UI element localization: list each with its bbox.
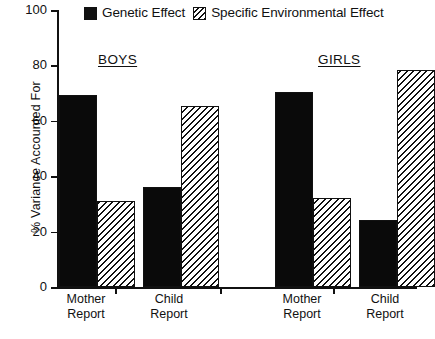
plot-area: 100 80 60 40 20 0 <box>57 10 417 287</box>
y-tick-0: 0 <box>51 287 57 289</box>
y-axis-title: % Variance Accounted For <box>29 37 43 277</box>
y-tick-label-80: 80 <box>33 57 47 72</box>
bar-girls-mother-environmental <box>313 198 351 287</box>
x-label-line1: Child <box>131 292 207 307</box>
y-tick-100: 100 <box>51 10 57 12</box>
x-label-line1: Child <box>347 292 423 307</box>
x-label-line2: Report <box>264 307 340 322</box>
bar-boys-child-genetic <box>143 187 181 287</box>
x-label-line2: Report <box>131 307 207 322</box>
x-label-line2: Report <box>347 307 423 322</box>
y-tick-60: 60 <box>51 121 57 123</box>
x-label-boys-mother-report: Mother Report <box>48 292 124 322</box>
y-tick-label-40: 40 <box>33 168 47 183</box>
bar-boys-mother-environmental <box>97 201 135 287</box>
x-label-girls-child-report: Child Report <box>347 292 423 322</box>
y-tick-label-60: 60 <box>33 113 47 128</box>
y-tick-label-0: 0 <box>40 279 47 294</box>
bar-boys-child-environmental <box>181 106 219 287</box>
bar-girls-child-genetic <box>359 220 397 287</box>
x-axis-line <box>57 287 417 289</box>
x-label-boys-child-report: Child Report <box>131 292 207 322</box>
x-label-line2: Report <box>48 307 124 322</box>
x-label-line1: Mother <box>264 292 340 307</box>
x-label-girls-mother-report: Mother Report <box>264 292 340 322</box>
y-tick-80: 80 <box>51 65 57 67</box>
x-tick-group-separator <box>220 287 222 294</box>
y-tick-40: 40 <box>51 176 57 178</box>
bar-girls-child-environmental <box>397 70 435 287</box>
y-tick-label-100: 100 <box>25 2 47 17</box>
x-label-line1: Mother <box>48 292 124 307</box>
bar-boys-mother-genetic <box>59 95 97 287</box>
y-tick-label-20: 20 <box>33 224 47 239</box>
bar-girls-mother-genetic <box>275 92 313 287</box>
y-tick-20: 20 <box>51 232 57 234</box>
